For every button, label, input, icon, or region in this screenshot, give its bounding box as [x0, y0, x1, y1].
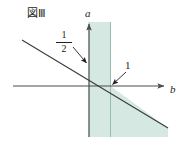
half-annotation-arrow: [73, 47, 87, 63]
figure-graphic: [0, 0, 184, 143]
one-annotation-arrow: [113, 72, 127, 85]
annotation-half-label: 1 2: [56, 30, 72, 54]
axis-label-b: b: [170, 84, 176, 95]
annotation-one-label: 1: [125, 60, 131, 71]
figure-container: 図Ⅲ a b 1 2 1: [0, 0, 184, 143]
shaded-lower-region: [89, 86, 168, 137]
axis-label-a: a: [85, 8, 91, 19]
annotation-half-denominator: 2: [56, 44, 72, 55]
annotation-half-numerator: 1: [56, 30, 72, 41]
figure-title: 図Ⅲ: [27, 8, 46, 19]
